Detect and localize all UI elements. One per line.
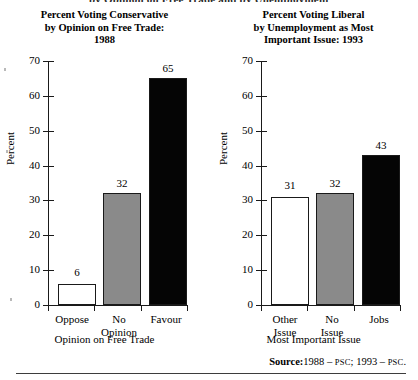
y-tick-label-20: 20 [221,229,253,240]
bar-value-oppose: 6 [58,267,96,278]
chart-title-line-2: by Opinion on Free Trade: [8,22,201,35]
scan-artifact [10,298,12,301]
chart-title-line-3: 1988 [8,34,201,47]
source-period: . [403,356,406,367]
x-tick-1 [94,305,95,311]
category-label-line: Other [261,313,309,326]
y-tick-label-10: 10 [8,264,40,275]
chart-title-line-1: Percent Voting Conservative [8,9,201,22]
x-tick-0 [261,305,262,311]
y-tick-10 [256,270,267,271]
bar-value-no-opinion: 32 [103,178,141,189]
source-year-1: 1988 – [303,356,335,367]
x-tick-3 [187,305,188,311]
bar-no-issue[interactable] [316,193,354,305]
y-tick-label-30: 30 [221,194,253,205]
y-tick-50 [43,131,54,132]
plot-area: Percent 0 10 20 30 40 50 60 70 31 [261,61,401,305]
category-label-oppose: Oppose [48,313,96,326]
scan-artifact [4,68,6,71]
chart-panel-conservative-1988: Percent Voting Conservative by Opinion o… [0,0,209,356]
chart-title: Percent Voting Liberal by Unemployment a… [217,9,410,47]
y-tick-60 [256,96,267,97]
x-axis-line [48,305,188,306]
bottom-horizontal-rule [16,373,406,374]
y-tick-label-30: 30 [8,194,40,205]
chart-panel-liberal-1993: Percent Voting Liberal by Unemployment a… [209,0,418,356]
y-tick-label-50: 50 [221,125,253,136]
bar-value-jobs: 43 [362,140,400,151]
category-label-jobs: Jobs [355,313,403,326]
bar-other-issue[interactable] [271,197,309,305]
y-tick-label-60: 60 [221,90,253,101]
y-tick-label-20: 20 [8,229,40,240]
source-label: Source: [269,356,303,367]
y-tick-20 [256,235,267,236]
source-code-1: PSC [335,357,351,367]
y-tick-label-40: 40 [8,160,40,171]
y-tick-70 [256,61,267,62]
y-tick-label-40: 40 [221,160,253,171]
figure-double-bar-chart: by Opinion on Free Trade and by Unemploy… [0,0,418,380]
x-tick-2 [48,305,49,311]
category-label-line: Oppose [48,313,96,326]
y-axis-line [48,61,49,305]
x-tick-2 [354,305,355,311]
x-axis-line [261,305,401,306]
y-tick-20 [43,235,54,236]
plot-area: Percent 0 10 20 30 40 50 60 70 [48,61,188,305]
x-axis-title: Most Important Issue [217,333,410,345]
category-label-line: No [308,313,356,326]
chart-title-line-2: by Unemployment as Most [217,22,410,35]
x-axis-title: Opinion on Free Trade [8,333,201,345]
y-tick-label-0: 0 [8,299,40,310]
y-tick-label-60: 60 [8,90,40,101]
bar-favour[interactable] [149,78,187,305]
bar-value-favour: 65 [149,63,187,74]
source-year-2: ; 1993 – [351,356,388,367]
category-label-line: No [95,313,143,326]
chart-title-line-1: Percent Voting Liberal [217,9,410,22]
y-tick-label-70: 70 [221,55,253,66]
bar-value-other-issue: 31 [271,180,309,191]
y-tick-label-10: 10 [221,264,253,275]
y-tick-30 [256,200,267,201]
y-axis-line [261,61,262,305]
y-tick-30 [43,200,54,201]
bar-oppose[interactable] [58,284,96,305]
y-tick-label-50: 50 [8,125,40,136]
category-label-line: Jobs [355,313,403,326]
y-tick-60 [43,96,54,97]
scan-artifact [6,150,8,153]
y-tick-70 [43,61,54,62]
category-label-line: Favour [142,313,190,326]
source-note: Source:1988 – PSC; 1993 – PSC. [269,356,406,367]
x-tick-1 [307,305,308,311]
chart-title: Percent Voting Conservative by Opinion o… [8,9,201,47]
y-tick-50 [256,131,267,132]
bar-no-opinion[interactable] [103,193,141,305]
bar-jobs[interactable] [362,155,400,305]
source-code-2: PSC [388,357,404,367]
y-tick-label-0: 0 [221,299,253,310]
chart-title-line-3: Important Issue: 1993 [217,34,410,47]
bar-value-no-issue: 32 [316,178,354,189]
y-tick-label-70: 70 [8,55,40,66]
x-tick-2b [141,305,142,311]
x-tick-3 [400,305,401,311]
y-tick-40 [43,166,54,167]
y-tick-10 [43,270,54,271]
category-label-favour: Favour [142,313,190,326]
y-tick-40 [256,166,267,167]
